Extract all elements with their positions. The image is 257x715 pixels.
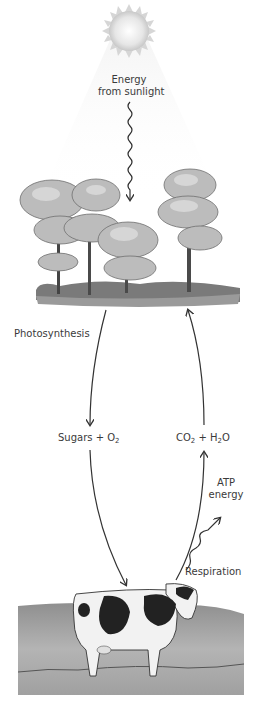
co2-to-trees-arrow bbox=[188, 310, 204, 425]
photosynthesis-label: Photosynthesis bbox=[14, 328, 90, 340]
respiration-label: Respiration bbox=[185, 566, 241, 578]
atp-label-line2: energy bbox=[206, 489, 246, 501]
diagram-graphics bbox=[0, 0, 257, 715]
energy-from-sunlight-label: Energy from sunlight bbox=[98, 74, 160, 98]
atp-label-line1: ATP bbox=[206, 477, 246, 489]
energy-label-line2: from sunlight bbox=[98, 86, 160, 98]
sugars-text: Sugars + O bbox=[58, 432, 115, 443]
cow-illustration bbox=[18, 584, 244, 695]
sun-icon bbox=[102, 4, 156, 58]
sugars-to-cow-arrow bbox=[90, 450, 126, 585]
energy-label-line1: Energy bbox=[98, 74, 160, 86]
photosynthesis-arrow bbox=[90, 310, 106, 425]
co2-h2o-label: CO2 + H2O bbox=[176, 432, 230, 444]
o-text: O bbox=[222, 432, 230, 443]
o2-subscript: 2 bbox=[115, 437, 119, 445]
co2-text: CO bbox=[176, 432, 191, 443]
atp-energy-label: ATP energy bbox=[206, 477, 246, 501]
plus-h-text: + H bbox=[195, 432, 217, 443]
sugars-o2-label: Sugars + O2 bbox=[58, 432, 120, 444]
energy-cycle-diagram: Energy from sunlight Photosynthesis Suga… bbox=[0, 0, 257, 715]
